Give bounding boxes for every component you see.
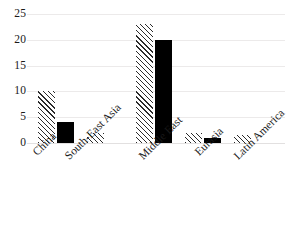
y-tick-label: 25 — [0, 8, 26, 20]
bar-chart: 25 20 15 10 5 0 — [0, 0, 291, 234]
bar-china-series2[interactable] — [57, 122, 74, 143]
bar-middle-east-series1[interactable] — [136, 24, 153, 143]
bar-series-container — [27, 14, 285, 143]
x-axis: China South-East Asia Middle East Eurasi… — [27, 146, 285, 232]
y-tick-label: 0 — [0, 137, 26, 149]
y-axis: 25 20 15 10 5 0 — [0, 0, 26, 234]
plot-area — [27, 14, 285, 143]
y-tick-label: 15 — [0, 60, 26, 72]
bar-group-china — [35, 14, 79, 143]
y-tick-label: 5 — [0, 111, 26, 123]
y-tick-label: 10 — [0, 86, 26, 98]
y-tick-label: 20 — [0, 34, 26, 46]
bar-group-eurasia — [182, 14, 226, 143]
